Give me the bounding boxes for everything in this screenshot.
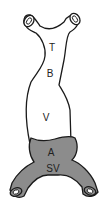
label-bulbus: B	[47, 68, 54, 79]
label-ventricle: V	[43, 112, 50, 123]
label-truncus: T	[49, 42, 55, 53]
upper-heart-tube	[24, 15, 79, 144]
label-sinus-venosus: SV	[46, 163, 60, 174]
label-atrium: A	[48, 147, 55, 158]
heart-tube-diagram: T B V A SV	[0, 0, 107, 213]
